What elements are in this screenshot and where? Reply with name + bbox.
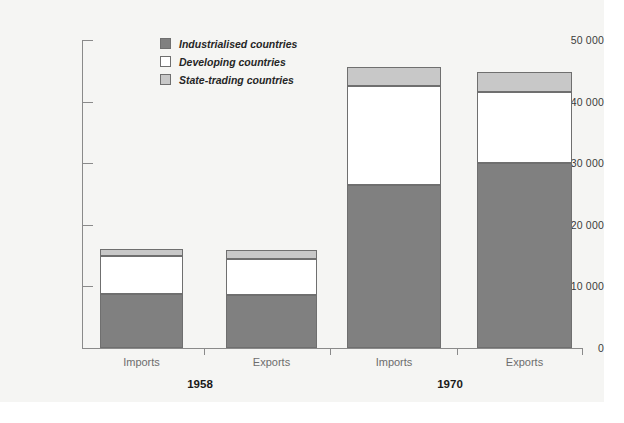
legend-label-industrialised: Industrialised countries	[179, 38, 297, 50]
legend-label-developing: Developing countries	[179, 56, 286, 68]
chart-figure: 50 000 40 000 30 000 20 000 10 000 0	[0, 0, 604, 402]
x-axis-line	[82, 348, 582, 349]
bar-segment-industrialised	[477, 163, 572, 348]
bar-1970-imports[interactable]	[347, 0, 441, 348]
y-tick-30000	[83, 163, 93, 164]
x-tick-3	[457, 348, 458, 355]
legend-item-developing[interactable]: Developing countries	[160, 54, 297, 69]
group-label-1970: 1970	[370, 378, 530, 390]
bar-segment-state-trading	[100, 249, 183, 256]
y-axis-line	[82, 40, 83, 349]
category-label-1958-imports: Imports	[100, 356, 183, 368]
plot-area: 50 000 40 000 30 000 20 000 10 000 0	[0, 0, 604, 402]
legend-label-state-trading: State-trading countries	[179, 74, 294, 86]
bar-segment-industrialised	[226, 295, 317, 348]
chart-legend: Industrialised countries Developing coun…	[160, 36, 297, 90]
legend-item-industrialised[interactable]: Industrialised countries	[160, 36, 297, 51]
bar-segment-state-trading	[477, 72, 572, 92]
bar-segment-industrialised	[347, 185, 441, 348]
y-tick-20000	[83, 225, 93, 226]
bar-1970-exports[interactable]	[477, 0, 572, 348]
y-tick-50000	[83, 40, 93, 41]
legend-swatch-icon-developing	[160, 56, 171, 67]
y-tick-10000	[83, 286, 93, 287]
legend-swatch-icon-state-trading	[160, 74, 171, 85]
category-label-1970-imports: Imports	[347, 356, 441, 368]
x-tick-4	[582, 348, 583, 355]
x-tick-1	[204, 348, 205, 355]
bar-segment-developing	[226, 259, 317, 295]
bar-segment-developing	[100, 256, 183, 294]
bar-segment-state-trading	[347, 67, 441, 85]
category-label-1970-exports: Exports	[477, 356, 572, 368]
bar-segment-developing	[477, 92, 572, 163]
bar-segment-state-trading	[226, 250, 317, 259]
x-tick-2	[330, 348, 331, 355]
category-label-1958-exports: Exports	[226, 356, 317, 368]
bar-segment-developing	[347, 86, 441, 185]
legend-item-state-trading[interactable]: State-trading countries	[160, 72, 297, 87]
legend-swatch-icon-industrialised	[160, 38, 171, 49]
group-label-1958: 1958	[120, 378, 280, 390]
bar-segment-industrialised	[100, 294, 183, 348]
y-tick-40000	[83, 102, 93, 103]
